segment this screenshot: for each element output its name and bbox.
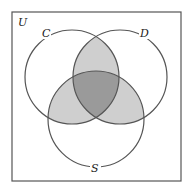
set-s-label: S [91,162,99,175]
set-c-label: C [42,27,51,40]
set-d-label: D [139,27,149,40]
venn-diagram: U C D S [0,0,193,192]
universe-label: U [18,16,28,29]
